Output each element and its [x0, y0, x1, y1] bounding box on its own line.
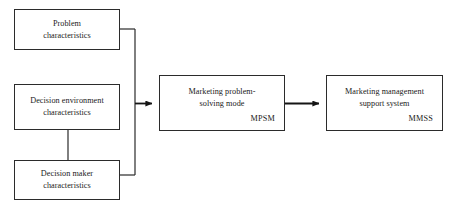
node-marketing-problem-solving-mode: Marketing problem- solving mode MPSM — [159, 75, 285, 131]
node-problem-characteristics-label: Problem characteristics — [39, 18, 95, 41]
node-marketing-problem-solving-mode-label: Marketing problem- solving mode — [160, 86, 284, 109]
node-decision-environment-characteristics-label: Decision environment characteristics — [26, 95, 108, 118]
node-marketing-management-support-system: Marketing management support system MMSS — [326, 75, 443, 131]
node-decision-maker-characteristics: Decision maker characteristics — [14, 160, 120, 200]
node-problem-characteristics: Problem characteristics — [14, 9, 120, 50]
node-decision-environment-characteristics: Decision environment characteristics — [14, 84, 120, 130]
node-mmss-acronym: MMSS — [409, 114, 433, 123]
diagram-canvas: Problem characteristics Decision environ… — [0, 0, 456, 207]
node-decision-maker-characteristics-label: Decision maker characteristics — [37, 168, 97, 191]
node-marketing-management-support-system-label: Marketing management support system — [327, 86, 442, 109]
node-mpsm-acronym: MPSM — [251, 114, 275, 123]
